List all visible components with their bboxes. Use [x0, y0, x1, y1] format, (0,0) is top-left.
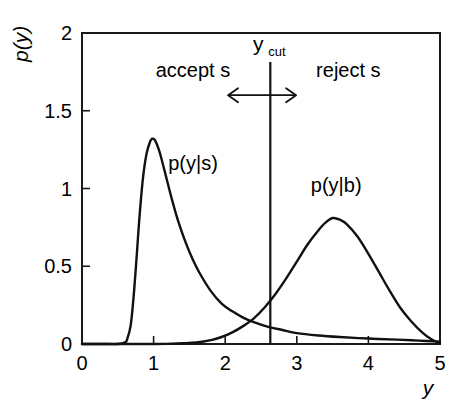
x-tick-label: 3 [291, 352, 302, 374]
y-cut-subscript: cut [268, 44, 286, 59]
y-tick-label: 2 [61, 22, 72, 44]
x-tick-label: 2 [220, 352, 231, 374]
accept-region-label: accept s [156, 59, 230, 81]
background-curve-label: p(y|b) [311, 174, 362, 196]
cut-direction-arrow [228, 88, 296, 102]
y-tick-label: 0 [61, 333, 72, 355]
y-axis-title: p(y) [9, 26, 32, 63]
y-tick-label: 1.5 [44, 100, 72, 122]
x-tick-labels: 012345 [76, 352, 445, 374]
x-tick-label: 0 [76, 352, 87, 374]
signal-curve-label: p(y|s) [168, 152, 218, 174]
plot-frame [82, 33, 440, 344]
x-tick-label: 4 [363, 352, 374, 374]
y-cut-label: y [253, 32, 264, 55]
x-tick-label: 5 [434, 352, 445, 374]
axis-ticks [82, 111, 368, 344]
y-tick-labels: 00.511.52 [44, 22, 72, 355]
x-tick-label: 1 [148, 352, 159, 374]
signal-pdf-curve [82, 139, 440, 345]
distribution-plot: 012345 00.511.52 y cut accept s reject s… [0, 0, 466, 409]
x-axis-title: y [421, 376, 435, 399]
reject-region-label: reject s [316, 59, 380, 81]
figure-root: 012345 00.511.52 y cut accept s reject s… [0, 0, 466, 409]
y-tick-label: 1 [61, 178, 72, 200]
y-tick-label: 0.5 [44, 255, 72, 277]
